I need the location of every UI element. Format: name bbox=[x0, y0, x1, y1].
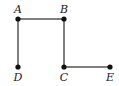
label-d: D bbox=[13, 71, 23, 84]
label-e: E bbox=[105, 71, 114, 84]
graph-diagram: A B C D E bbox=[0, 0, 119, 86]
node-a bbox=[15, 16, 20, 21]
node-b bbox=[61, 16, 66, 21]
label-b: B bbox=[59, 3, 68, 16]
label-c: C bbox=[60, 71, 69, 84]
node-c bbox=[61, 64, 66, 69]
edges bbox=[18, 19, 110, 67]
node-d bbox=[15, 64, 20, 69]
node-e bbox=[107, 64, 112, 69]
label-a: A bbox=[13, 3, 22, 16]
